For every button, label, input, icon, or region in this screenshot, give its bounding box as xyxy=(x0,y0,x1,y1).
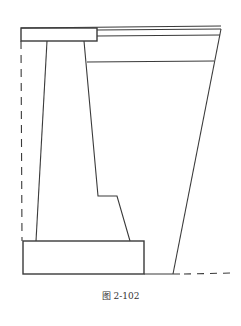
left-dashed-line xyxy=(21,41,22,241)
deck-top-line xyxy=(21,26,221,28)
pier-diagram xyxy=(0,0,241,326)
pier-footing xyxy=(23,241,144,274)
inner-horizontal-line xyxy=(87,61,214,62)
figure-caption: 图 2-102 xyxy=(0,289,241,302)
deck-line-2 xyxy=(97,29,221,30)
pier-right-edge xyxy=(84,41,130,241)
ground-dashed-line xyxy=(184,273,232,274)
right-slope-line xyxy=(173,29,221,274)
pier-left-edge xyxy=(36,41,47,241)
pier-cap xyxy=(21,28,97,41)
deck-line-3 xyxy=(97,35,220,36)
